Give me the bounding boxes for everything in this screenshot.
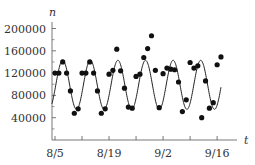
chart: 40000800001200001600002000008/58/199/29/…: [0, 0, 255, 165]
data-point: [145, 46, 150, 51]
data-point: [106, 72, 111, 77]
data-point: [103, 106, 108, 111]
data-point: [76, 106, 81, 111]
data-point: [122, 86, 127, 91]
data-point: [130, 106, 135, 111]
data-point: [141, 55, 146, 60]
x-axis-label: t: [244, 134, 249, 147]
data-point: [64, 71, 69, 76]
data-point: [68, 88, 73, 93]
data-point: [72, 111, 77, 116]
data-point: [211, 100, 216, 105]
data-point: [99, 111, 104, 116]
x-tick-label: 9/16: [205, 147, 230, 160]
data-point: [207, 106, 212, 111]
data-point: [118, 68, 123, 73]
x-tick-label: 8/5: [46, 147, 64, 160]
data-point: [91, 71, 96, 76]
y-tick-label: 80000: [11, 89, 46, 102]
data-point: [160, 71, 165, 76]
data-point: [199, 115, 204, 120]
data-point: [188, 60, 193, 65]
data-point: [137, 72, 142, 77]
y-tick-label: 40000: [11, 112, 46, 125]
data-point: [83, 71, 88, 76]
y-tick-label: 120000: [4, 67, 46, 80]
axis-labels: 40000800001200001600002000008/58/199/29/…: [4, 6, 249, 160]
data-point: [195, 63, 200, 68]
data-point: [95, 88, 100, 93]
data-point: [203, 78, 208, 83]
data-point: [56, 71, 61, 76]
data-point: [153, 68, 158, 73]
data-point: [184, 97, 189, 102]
data-point: [176, 79, 181, 84]
x-tick-label: 9/2: [154, 147, 172, 160]
data-point: [215, 62, 220, 67]
data-point: [157, 105, 162, 110]
y-tick-label: 200000: [4, 23, 46, 36]
data-point: [149, 33, 154, 38]
axes: [52, 22, 237, 140]
data-point: [180, 109, 185, 114]
x-tick-label: 8/19: [97, 147, 122, 160]
data-point: [87, 59, 92, 64]
y-axis-label: n: [49, 6, 56, 19]
data-point: [114, 47, 119, 52]
data-point: [60, 59, 65, 64]
data-point: [110, 68, 115, 73]
data-point: [172, 67, 177, 72]
data-point: [218, 54, 223, 59]
data-points: [52, 33, 223, 120]
y-tick-label: 160000: [4, 45, 46, 58]
